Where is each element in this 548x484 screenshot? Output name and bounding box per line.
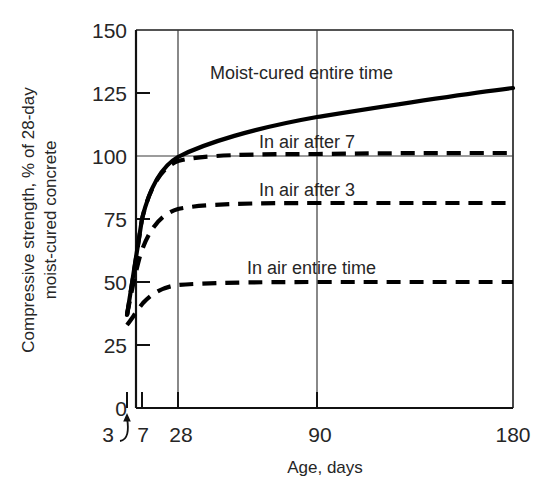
y-tick-label-75: 75 — [104, 208, 127, 231]
x-tick-label-3: 3 — [102, 423, 114, 446]
y-axis-title-line2: moist-cured concrete — [41, 141, 60, 300]
series-label-moist-cured: Moist-cured entire time — [210, 63, 393, 83]
chart-figure: 150 125 100 75 50 25 0 3 7 28 90 180 Moi… — [0, 0, 548, 484]
y-tick-label-125: 125 — [92, 82, 127, 105]
y-tick-label-150: 150 — [92, 19, 127, 42]
y-axis-title-line1: Compressive strength, % of 28-day — [19, 87, 38, 353]
y-tick-label-0: 0 — [115, 397, 127, 420]
x-axis-title: Age, days — [287, 458, 363, 477]
series-label-in-air-after-7: In air after 7 — [259, 132, 355, 152]
y-tick-label-25: 25 — [104, 334, 127, 357]
x-tick-label-7: 7 — [137, 423, 149, 446]
y-tick-label-50: 50 — [104, 271, 127, 294]
x-tick-label-180: 180 — [495, 423, 530, 446]
y-tick-label-100: 100 — [92, 145, 127, 168]
series-label-in-air-entire-time: In air entire time — [247, 258, 376, 278]
series-label-in-air-after-3: In air after 3 — [259, 180, 355, 200]
x-tick-label-28: 28 — [169, 423, 192, 446]
compressive-strength-line-chart: 150 125 100 75 50 25 0 3 7 28 90 180 Moi… — [0, 0, 548, 484]
x-tick-label-90: 90 — [308, 423, 331, 446]
